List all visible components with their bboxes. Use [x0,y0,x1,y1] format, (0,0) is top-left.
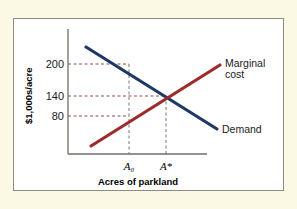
figure-container: 200 140 80 $1,000s/acre A₀ A* Acres of p… [0,0,297,209]
series-marginal-cost [91,65,220,146]
series-demand [86,47,217,129]
series-label-demand: Demand [222,123,262,135]
series-label-marginal-cost-line2: cost [225,68,244,80]
demand-line [86,47,217,129]
y-tick-label-140: 140 [46,90,64,102]
chart-plot-area: 200 140 80 $1,000s/acre A₀ A* Acres of p… [14,19,283,190]
y-axis-title: $1,000s/acre [23,67,34,124]
marginal-cost-line [91,65,220,146]
x-tick-label-astar: A* [159,160,173,172]
x-axis-title: Acres of parkland [98,176,178,187]
y-tick-label-80: 80 [52,110,64,122]
x-tick-label-a0: A₀ [123,160,135,172]
y-tick-label-200: 200 [46,58,64,70]
chart-panel: 200 140 80 $1,000s/acre A₀ A* Acres of p… [13,18,284,191]
